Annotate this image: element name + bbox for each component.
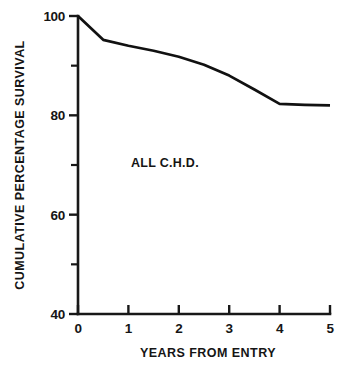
survival-curve-chart: 100806040 012345 ALL C.H.D. YEARS FROM E… <box>0 0 348 370</box>
x-tick-label-0: 0 <box>74 321 81 336</box>
x-tick-label-2: 2 <box>175 321 182 336</box>
y-tick-label-100: 100 <box>43 9 65 24</box>
chart-figure: 100806040 012345 ALL C.H.D. YEARS FROM E… <box>0 0 348 370</box>
y-tick-label-40: 40 <box>51 307 65 322</box>
x-tick-label-1: 1 <box>125 321 133 336</box>
x-tick-label-4: 4 <box>276 321 284 336</box>
y-axis-title: CUMULATIVE PERCENTAGE SURVIVAL <box>13 40 27 289</box>
y-tick-label-60: 60 <box>51 208 65 223</box>
x-axis-title: YEARS FROM ENTRY <box>140 346 276 360</box>
chart-annotation-0: ALL C.H.D. <box>131 156 199 170</box>
y-tick-label-80: 80 <box>51 108 65 123</box>
x-tick-label-5: 5 <box>326 321 334 336</box>
annotation-group: ALL C.H.D. <box>131 156 199 170</box>
x-tick-label-3: 3 <box>226 321 234 336</box>
